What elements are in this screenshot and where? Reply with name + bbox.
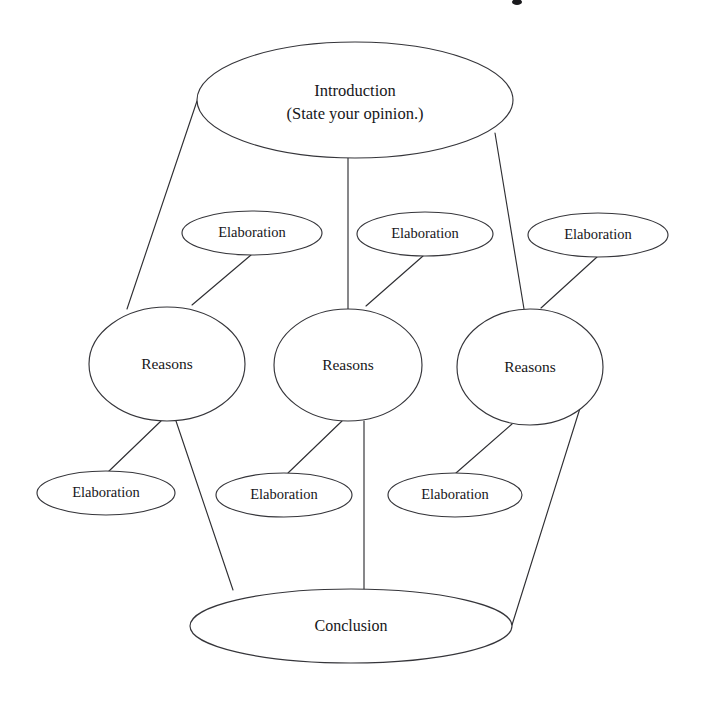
edge-reasons-3-to-elaboration-l3 bbox=[456, 424, 512, 473]
scan-artifact-speck bbox=[512, 0, 522, 5]
elaboration-upper-1-label: Elaboration bbox=[218, 224, 286, 240]
node-reasons-1[interactable]: Reasons bbox=[89, 307, 245, 421]
introduction-label-line1: Introduction bbox=[314, 81, 396, 100]
node-elaboration-upper-2[interactable]: Elaboration bbox=[357, 212, 493, 256]
node-reasons-2[interactable]: Reasons bbox=[274, 309, 422, 421]
node-elaboration-lower-3[interactable]: Elaboration bbox=[388, 473, 522, 517]
node-reasons-3[interactable]: Reasons bbox=[457, 309, 603, 425]
edge-reasons-2-to-elaboration-l2 bbox=[288, 421, 342, 473]
edge-elaboration-u2-to-reasons-2 bbox=[366, 256, 423, 306]
elaboration-lower-1-label: Elaboration bbox=[72, 484, 140, 500]
elaboration-lower-2-label: Elaboration bbox=[250, 486, 318, 502]
reasons-2-label: Reasons bbox=[322, 356, 374, 373]
introduction-label-line2: (State your opinion.) bbox=[286, 104, 423, 123]
reasons-1-label: Reasons bbox=[141, 355, 193, 372]
edge-introduction-to-reasons-3 bbox=[495, 133, 524, 309]
node-elaboration-lower-2[interactable]: Elaboration bbox=[216, 473, 352, 517]
organizer-canvas: Introduction (State your opinion.) Elabo… bbox=[0, 0, 702, 722]
node-introduction[interactable]: Introduction (State your opinion.) bbox=[197, 42, 513, 158]
graphic-organizer-diagram: Introduction (State your opinion.) Elabo… bbox=[0, 0, 702, 722]
node-elaboration-upper-1[interactable]: Elaboration bbox=[182, 211, 322, 255]
edge-elaboration-u3-to-reasons-3 bbox=[541, 257, 597, 308]
node-elaboration-lower-1[interactable]: Elaboration bbox=[37, 471, 175, 515]
node-conclusion[interactable]: Conclusion bbox=[190, 589, 512, 663]
edge-reasons-3-to-conclusion bbox=[512, 405, 581, 625]
elaboration-lower-3-label: Elaboration bbox=[421, 486, 489, 502]
edge-introduction-to-reasons-1 bbox=[127, 101, 197, 309]
conclusion-label: Conclusion bbox=[315, 617, 388, 634]
introduction-ellipse[interactable] bbox=[197, 42, 513, 158]
elaboration-upper-3-label: Elaboration bbox=[564, 226, 632, 242]
edge-reasons-1-to-elaboration-l1 bbox=[108, 421, 161, 472]
elaboration-upper-2-label: Elaboration bbox=[391, 225, 459, 241]
node-elaboration-upper-3[interactable]: Elaboration bbox=[528, 213, 668, 257]
edge-elaboration-u1-to-reasons-1 bbox=[192, 255, 251, 305]
reasons-3-label: Reasons bbox=[504, 358, 556, 375]
